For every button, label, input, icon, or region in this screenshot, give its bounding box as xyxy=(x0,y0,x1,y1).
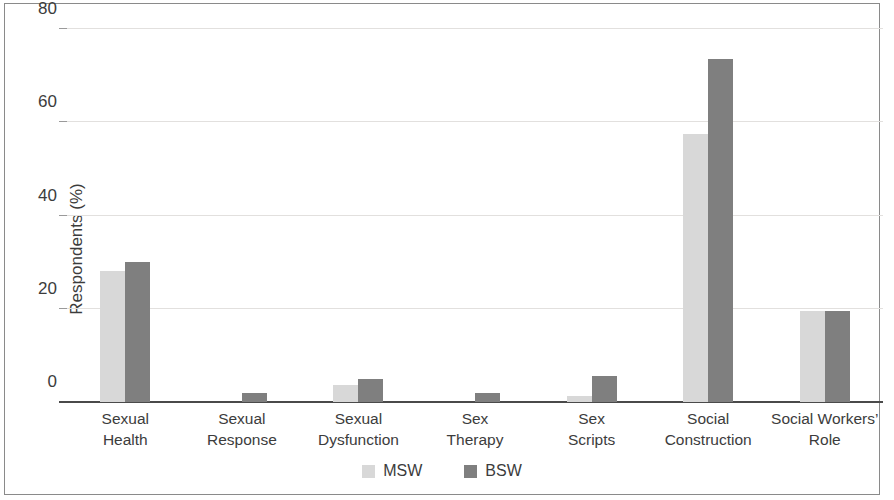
category-label: SexualResponse xyxy=(184,408,301,450)
bar-pair xyxy=(450,29,500,402)
category-label-line: Therapy xyxy=(417,429,534,450)
bar-pair xyxy=(567,29,617,402)
category-label-line: Sex xyxy=(417,408,534,429)
category-label-line: Response xyxy=(184,429,301,450)
bar-group xyxy=(300,29,417,402)
bar-msw[interactable] xyxy=(100,271,125,402)
y-tick-mark xyxy=(59,121,67,122)
bar-bsw[interactable] xyxy=(358,379,383,402)
bar-group xyxy=(533,29,650,402)
bar-bsw[interactable] xyxy=(592,376,617,402)
category-label-line: Social xyxy=(650,408,767,429)
legend-swatch-icon xyxy=(464,465,477,478)
chart-frame: Respondents (%) 020406080 SexualHealthSe… xyxy=(4,3,880,495)
category-label-line: Scripts xyxy=(533,429,650,450)
category-label: SocialConstruction xyxy=(650,408,767,450)
legend-swatch-icon xyxy=(362,465,375,478)
bar-msw[interactable] xyxy=(683,134,708,402)
y-tick-label: 60 xyxy=(38,92,57,112)
bar-bsw[interactable] xyxy=(242,393,267,402)
category-label: SexualDysfunction xyxy=(300,408,417,450)
legend-label: BSW xyxy=(485,462,521,480)
legend-label: MSW xyxy=(383,462,422,480)
bar-group xyxy=(766,29,883,402)
bar-groups xyxy=(67,29,883,402)
bar-group xyxy=(650,29,767,402)
y-tick-mark xyxy=(59,215,67,216)
bar-msw[interactable] xyxy=(333,385,358,402)
y-tick-label: 20 xyxy=(38,279,57,299)
category-label-line: Sexual xyxy=(184,408,301,429)
category-label-line: Sex xyxy=(533,408,650,429)
bar-bsw[interactable] xyxy=(125,262,150,402)
category-label: SexTherapy xyxy=(417,408,534,450)
y-tick-mark xyxy=(59,308,67,309)
plot-area: 020406080 xyxy=(67,29,883,402)
category-label-line: Construction xyxy=(650,429,767,450)
bar-msw[interactable] xyxy=(567,396,592,402)
chart-legend: MSWBSW xyxy=(5,462,879,480)
y-tick-label: 0 xyxy=(48,372,57,392)
category-label: SexualHealth xyxy=(67,408,184,450)
legend-item-msw[interactable]: MSW xyxy=(362,462,422,480)
y-tick-label: 40 xyxy=(38,186,57,206)
category-label-line: Role xyxy=(766,429,883,450)
bar-group xyxy=(67,29,184,402)
category-label-line: Sexual xyxy=(300,408,417,429)
y-tick-mark xyxy=(59,28,67,29)
bar-group xyxy=(417,29,534,402)
category-label: Social Workers’Role xyxy=(766,408,883,450)
bar-pair xyxy=(100,29,150,402)
category-label-line: Sexual xyxy=(67,408,184,429)
bar-pair xyxy=(683,29,733,402)
bar-pair xyxy=(217,29,267,402)
bar-pair xyxy=(333,29,383,402)
category-label-line: Social Workers’ xyxy=(766,408,883,429)
x-axis-category-labels: SexualHealthSexualResponseSexualDysfunct… xyxy=(67,408,883,450)
legend-item-bsw[interactable]: BSW xyxy=(464,462,521,480)
bar-bsw[interactable] xyxy=(825,311,850,402)
bar-pair xyxy=(800,29,850,402)
category-label: SexScripts xyxy=(533,408,650,450)
y-tick-label: 80 xyxy=(38,0,57,19)
bar-bsw[interactable] xyxy=(475,393,500,402)
bar-msw[interactable] xyxy=(800,311,825,402)
bar-group xyxy=(184,29,301,402)
category-label-line: Dysfunction xyxy=(300,429,417,450)
bar-bsw[interactable] xyxy=(708,59,733,402)
category-label-line: Health xyxy=(67,429,184,450)
